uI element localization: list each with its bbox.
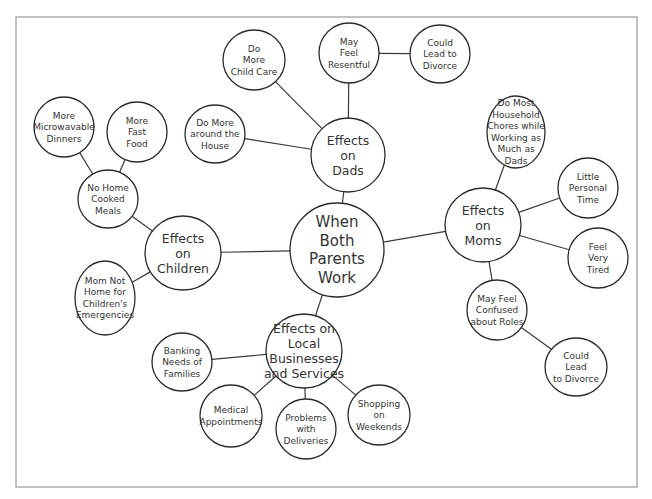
bubble-moms-chores: Do MostHouseholdChores whileWorking asMu… bbox=[487, 96, 545, 168]
bubble-label: Effects onLocalBusinessesand Services bbox=[264, 321, 344, 381]
bubble-moms-personal: LittlePersonalTime bbox=[558, 158, 618, 218]
bubble-children-fastfood: MoreFastFood bbox=[107, 102, 167, 162]
bubble-children-emergencies: Mom NotHome forChildren'sEmergencies bbox=[75, 261, 135, 335]
bubble-children-microwave: MoreMicrowavableDinners bbox=[33, 97, 95, 157]
bubble-label: May FeelConfusedabout Roles bbox=[471, 294, 524, 327]
bubble-children-meals: No HomeCookedMeals bbox=[78, 170, 138, 228]
bubble-dads-resentful: MayFeelResentful bbox=[319, 23, 379, 83]
bubble-moms-confused: May FeelConfusedabout Roles bbox=[467, 280, 527, 340]
bubble-label: CouldLead toDivorce bbox=[423, 38, 458, 71]
bubble-moms: EffectsonMoms bbox=[445, 188, 521, 262]
bubble-dads-house: Do Morearound theHouse bbox=[185, 105, 245, 163]
bubble-dads-divorce: CouldLead toDivorce bbox=[410, 25, 470, 83]
bubble-business: Effects onLocalBusinessesand Services bbox=[264, 314, 344, 388]
bubble-business-banking: BankingNeeds ofFamilies bbox=[152, 333, 212, 391]
bubble-dads-childcare: DoMoreChild Care bbox=[223, 30, 285, 90]
bubble-map-diagram: WhenBothParentsWorkEffectsonDadsDoMoreCh… bbox=[0, 0, 652, 499]
bubble-center: WhenBothParentsWork bbox=[290, 203, 384, 297]
bubble-business-medical: MedicalAppointments bbox=[199, 385, 262, 447]
bubble-moms-tired: FeelVeryTired bbox=[568, 228, 628, 288]
bubble-label: BankingNeeds ofFamilies bbox=[162, 346, 203, 379]
bubble-label: MoreFastFood bbox=[126, 116, 149, 149]
bubble-moms-divorce: CouldLeadto Divorce bbox=[545, 338, 607, 396]
bubble-children: EffectsonChildren bbox=[145, 216, 221, 290]
bubble-dads: EffectsonDads bbox=[311, 118, 385, 192]
bubble-business-deliveries: ProblemswithDeliveries bbox=[276, 399, 336, 459]
bubble-label: FeelVeryTired bbox=[586, 242, 609, 275]
bubble-business-shopping: ShoppingonWeekends bbox=[348, 385, 410, 445]
